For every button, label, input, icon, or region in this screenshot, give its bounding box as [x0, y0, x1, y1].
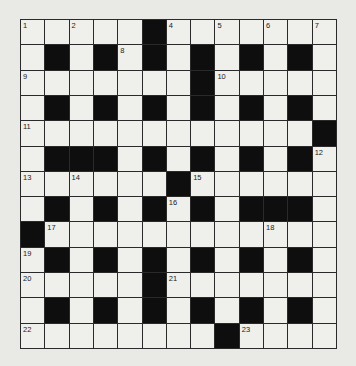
crossword-cell[interactable]: 1: [21, 20, 44, 44]
crossword-cell[interactable]: [118, 298, 141, 322]
crossword-cell[interactable]: [215, 45, 238, 69]
crossword-cell[interactable]: [167, 96, 190, 120]
crossword-cell[interactable]: [191, 273, 214, 297]
crossword-cell[interactable]: 7: [313, 20, 336, 44]
crossword-cell[interactable]: [143, 324, 166, 348]
crossword-cell[interactable]: [118, 273, 141, 297]
crossword-cell[interactable]: [215, 248, 238, 272]
crossword-cell[interactable]: [94, 20, 117, 44]
crossword-cell[interactable]: 22: [21, 324, 44, 348]
crossword-cell[interactable]: [118, 248, 141, 272]
crossword-cell[interactable]: [215, 147, 238, 171]
crossword-cell[interactable]: [240, 20, 263, 44]
crossword-cell[interactable]: [118, 96, 141, 120]
crossword-cell[interactable]: [191, 222, 214, 246]
crossword-cell[interactable]: 10: [215, 71, 238, 95]
crossword-cell[interactable]: 9: [21, 71, 44, 95]
crossword-cell[interactable]: [21, 147, 44, 171]
crossword-cell[interactable]: [288, 71, 311, 95]
crossword-cell[interactable]: [313, 273, 336, 297]
crossword-cell[interactable]: 8: [118, 45, 141, 69]
crossword-cell[interactable]: [167, 121, 190, 145]
crossword-cell[interactable]: [264, 273, 287, 297]
crossword-cell[interactable]: [70, 71, 93, 95]
crossword-cell[interactable]: 17: [45, 222, 68, 246]
crossword-cell[interactable]: [264, 96, 287, 120]
crossword-cell[interactable]: [215, 298, 238, 322]
crossword-cell[interactable]: [94, 121, 117, 145]
crossword-cell[interactable]: [45, 20, 68, 44]
crossword-cell[interactable]: [21, 96, 44, 120]
crossword-cell[interactable]: [215, 273, 238, 297]
crossword-cell[interactable]: 20: [21, 273, 44, 297]
crossword-cell[interactable]: [313, 71, 336, 95]
crossword-cell[interactable]: [313, 197, 336, 221]
crossword-cell[interactable]: 21: [167, 273, 190, 297]
crossword-cell[interactable]: [45, 273, 68, 297]
crossword-cell[interactable]: [313, 298, 336, 322]
crossword-cell[interactable]: [313, 172, 336, 196]
crossword-cell[interactable]: [167, 248, 190, 272]
crossword-cell[interactable]: [118, 324, 141, 348]
crossword-cell[interactable]: [215, 172, 238, 196]
crossword-cell[interactable]: 18: [264, 222, 287, 246]
crossword-cell[interactable]: [167, 45, 190, 69]
crossword-cell[interactable]: 16: [167, 197, 190, 221]
crossword-cell[interactable]: [118, 197, 141, 221]
crossword-cell[interactable]: [45, 324, 68, 348]
crossword-cell[interactable]: 4: [167, 20, 190, 44]
crossword-cell[interactable]: [313, 45, 336, 69]
crossword-cell[interactable]: [21, 45, 44, 69]
crossword-cell[interactable]: [167, 147, 190, 171]
crossword-cell[interactable]: [191, 324, 214, 348]
crossword-cell[interactable]: [313, 248, 336, 272]
crossword-cell[interactable]: [288, 222, 311, 246]
crossword-cell[interactable]: 12: [313, 147, 336, 171]
crossword-cell[interactable]: [288, 324, 311, 348]
crossword-cell[interactable]: [45, 121, 68, 145]
crossword-cell[interactable]: [264, 121, 287, 145]
crossword-cell[interactable]: [118, 20, 141, 44]
crossword-cell[interactable]: [45, 71, 68, 95]
crossword-cell[interactable]: [21, 197, 44, 221]
crossword-cell[interactable]: [191, 20, 214, 44]
crossword-cell[interactable]: 13: [21, 172, 44, 196]
crossword-cell[interactable]: [118, 71, 141, 95]
crossword-cell[interactable]: [94, 324, 117, 348]
crossword-cell[interactable]: 11: [21, 121, 44, 145]
crossword-cell[interactable]: [70, 248, 93, 272]
crossword-cell[interactable]: [264, 298, 287, 322]
crossword-cell[interactable]: [143, 71, 166, 95]
crossword-cell[interactable]: 15: [191, 172, 214, 196]
crossword-cell[interactable]: [288, 20, 311, 44]
crossword-cell[interactable]: [70, 273, 93, 297]
crossword-cell[interactable]: [264, 45, 287, 69]
crossword-cell[interactable]: [264, 172, 287, 196]
crossword-cell[interactable]: [94, 71, 117, 95]
crossword-cell[interactable]: [118, 121, 141, 145]
crossword-cell[interactable]: [240, 222, 263, 246]
crossword-cell[interactable]: [264, 71, 287, 95]
crossword-cell[interactable]: [94, 222, 117, 246]
crossword-cell[interactable]: [143, 172, 166, 196]
crossword-cell[interactable]: [288, 172, 311, 196]
crossword-cell[interactable]: [118, 222, 141, 246]
crossword-cell[interactable]: 23: [240, 324, 263, 348]
crossword-cell[interactable]: [21, 298, 44, 322]
crossword-cell[interactable]: [118, 147, 141, 171]
crossword-cell[interactable]: [288, 273, 311, 297]
crossword-cell[interactable]: [167, 71, 190, 95]
crossword-cell[interactable]: [288, 121, 311, 145]
crossword-cell[interactable]: [240, 172, 263, 196]
crossword-cell[interactable]: [70, 324, 93, 348]
crossword-cell[interactable]: 14: [70, 172, 93, 196]
crossword-cell[interactable]: [264, 147, 287, 171]
crossword-cell[interactable]: [240, 121, 263, 145]
crossword-cell[interactable]: [70, 45, 93, 69]
crossword-cell[interactable]: [70, 298, 93, 322]
crossword-cell[interactable]: [118, 172, 141, 196]
crossword-cell[interactable]: [264, 324, 287, 348]
crossword-cell[interactable]: [94, 273, 117, 297]
crossword-cell[interactable]: [143, 222, 166, 246]
crossword-cell[interactable]: [167, 222, 190, 246]
